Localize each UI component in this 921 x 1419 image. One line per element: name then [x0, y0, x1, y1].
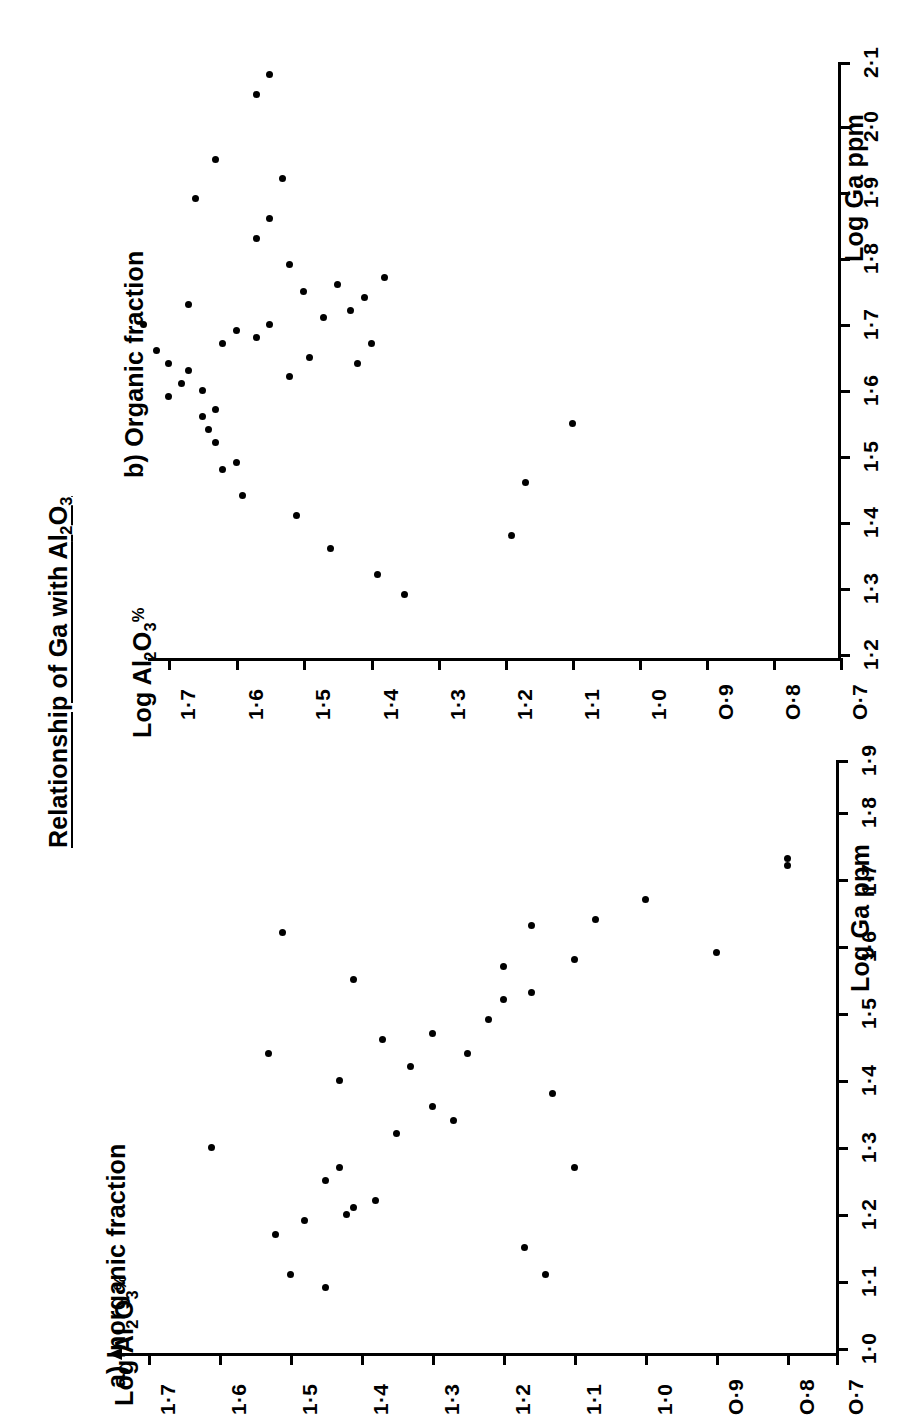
y-tick-label: 1·5 [299, 1384, 320, 1415]
y-tick-mark [503, 1353, 506, 1365]
data-point [219, 466, 226, 473]
x-tick-mark [836, 760, 848, 763]
y-tick-mark [706, 658, 709, 670]
data-point [549, 1090, 556, 1097]
data-point [336, 1164, 343, 1171]
y-tick-mark [840, 658, 843, 670]
x-tick-label: 1·2 [860, 639, 881, 670]
data-point [306, 354, 313, 361]
y-tick-label: 1·5 [312, 689, 333, 720]
data-point [368, 340, 375, 347]
data-point [354, 360, 361, 367]
y-tick-mark [290, 1353, 293, 1365]
data-point [266, 71, 273, 78]
data-point [393, 1130, 400, 1137]
panel-b-title: b) Organic fraction [122, 251, 147, 478]
x-tick-label: 1·6 [858, 931, 879, 962]
y-tick-mark [572, 658, 575, 670]
data-point [569, 420, 576, 427]
x-tick-label: 1·0 [858, 1333, 879, 1364]
y-tick-label: 1·0 [654, 1384, 675, 1415]
data-point [212, 439, 219, 446]
x-tick-mark [838, 390, 850, 393]
x-tick-mark [838, 588, 850, 591]
data-point [153, 347, 160, 354]
data-point [350, 976, 357, 983]
x-tick-mark [836, 1147, 848, 1150]
x-tick-label: 1·9 [858, 745, 879, 776]
y-tick-mark [361, 1353, 364, 1365]
data-point [185, 301, 192, 308]
y-tick-label: O·9 [725, 1379, 746, 1415]
data-point [286, 261, 293, 268]
x-tick-label: 1·3 [858, 1132, 879, 1163]
x-tick-mark [836, 1013, 848, 1016]
data-point [287, 1271, 294, 1278]
data-point [528, 922, 535, 929]
x-tick-mark [836, 946, 848, 949]
y-tick-label: 1·1 [583, 1384, 604, 1415]
x-tick-mark [836, 1214, 848, 1217]
data-point [407, 1063, 414, 1070]
data-point [361, 294, 368, 301]
data-point [522, 479, 529, 486]
data-point [374, 571, 381, 578]
data-point [336, 1077, 343, 1084]
x-tick-mark [838, 258, 850, 261]
data-point [784, 862, 791, 869]
data-point [253, 235, 260, 242]
data-point [300, 288, 307, 295]
y-tick-label: 1·6 [245, 689, 266, 720]
data-point [372, 1197, 379, 1204]
panel-a-y-axis-arrowhead [108, 1348, 122, 1360]
x-tick-label: 1·8 [860, 243, 881, 274]
data-point [279, 929, 286, 936]
x-tick-label: 1·9 [860, 177, 881, 208]
data-point [165, 360, 172, 367]
y-tick-label: 1·2 [514, 689, 535, 720]
data-point [239, 492, 246, 499]
y-tick-mark [303, 658, 306, 670]
x-tick-mark [838, 192, 850, 195]
data-point [429, 1103, 436, 1110]
data-point [208, 1144, 215, 1151]
y-tick-label: 1·6 [228, 1384, 249, 1415]
x-tick-label: 1·5 [858, 998, 879, 1029]
x-tick-mark [836, 1348, 848, 1351]
x-tick-mark [836, 1281, 848, 1284]
x-tick-mark [838, 522, 850, 525]
x-tick-label: 2·0 [860, 111, 881, 142]
data-point [521, 1244, 528, 1251]
data-point [205, 426, 212, 433]
y-tick-mark [236, 658, 239, 670]
y-tick-mark [219, 1353, 222, 1365]
y-tick-label: O·8 [796, 1379, 817, 1415]
data-point [322, 1284, 329, 1291]
y-tick-mark [645, 1353, 648, 1365]
x-tick-label: 2·1 [860, 47, 881, 78]
data-point [266, 215, 273, 222]
data-point [322, 1177, 329, 1184]
x-tick-mark [838, 126, 850, 129]
data-point [528, 989, 535, 996]
data-point [178, 380, 185, 387]
x-tick-mark [836, 812, 848, 815]
y-tick-label: 1·1 [581, 689, 602, 720]
data-point [571, 956, 578, 963]
data-point [429, 1030, 436, 1037]
data-point [233, 327, 240, 334]
x-tick-label: 1·7 [860, 309, 881, 340]
data-point [500, 963, 507, 970]
y-tick-mark [148, 1353, 151, 1365]
x-tick-mark [838, 654, 850, 657]
data-point [253, 91, 260, 98]
data-point [219, 340, 226, 347]
figure-canvas: Relationship of Ga with Al2O3 b) Organic… [0, 0, 921, 1419]
y-tick-label: 1·4 [370, 1384, 391, 1415]
data-point [784, 855, 791, 862]
x-tick-label: 1·7 [858, 864, 879, 895]
data-point [379, 1036, 386, 1043]
y-tick-label: O·9 [715, 684, 736, 720]
panel-a-y-axis [120, 1353, 838, 1356]
panel-a-y-axis-label: Log Al2O3% [112, 1275, 141, 1406]
